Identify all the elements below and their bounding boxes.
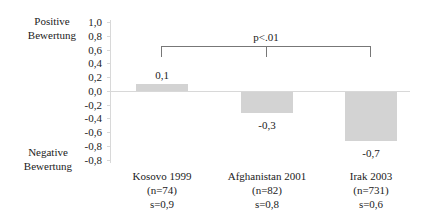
bracket-tick-right [370, 46, 371, 57]
value-label-kosovo: 0,1 [137, 69, 187, 81]
y-tick-label: -0,8 [72, 140, 102, 152]
category-s: s=0,8 [212, 197, 322, 211]
bracket-tick-left [161, 46, 162, 57]
y-tick-label: 0,2 [72, 71, 102, 83]
category-n: (n=731) [316, 183, 426, 197]
value-label-afghanistan: -0,3 [242, 119, 292, 131]
category-name: Afghanistan 2001 [212, 169, 322, 183]
bar-irak [345, 92, 397, 141]
y-tick-label: 0,4 [72, 57, 102, 69]
value-label-irak: -0,7 [346, 147, 396, 159]
y-tick-label: 0,0 [72, 85, 102, 97]
category-irak: Irak 2003 (n=731) s=0,6 [316, 169, 426, 211]
y-tick-label: -0,4 [72, 112, 102, 124]
y-tick-label: -0,2 [72, 99, 102, 111]
category-name: Irak 2003 [316, 169, 426, 183]
category-name: Kosovo 1999 [107, 169, 217, 183]
category-s: s=0,9 [107, 197, 217, 211]
y-tick-label: 1,0 [72, 16, 102, 28]
category-s: s=0,6 [316, 197, 426, 211]
y-tick-label: -0,8 [72, 154, 102, 166]
bracket-tick-middle [266, 46, 267, 57]
category-kosovo: Kosovo 1999 (n=74) s=0,9 [107, 169, 217, 211]
category-n: (n=82) [212, 183, 322, 197]
bar-kosovo [136, 84, 188, 91]
category-afghanistan: Afghanistan 2001 (n=82) s=0,8 [212, 169, 322, 211]
y-tick-label: 0,6 [72, 44, 102, 56]
y-tick-label: -0,6 [72, 126, 102, 138]
category-n: (n=74) [107, 183, 217, 197]
significance-label: p<.01 [236, 31, 296, 43]
y-tick-label: 0,8 [72, 30, 102, 42]
bar-afghanistan [241, 92, 293, 113]
